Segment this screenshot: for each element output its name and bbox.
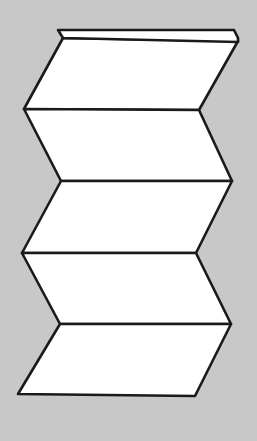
paper-panel-3 [22, 181, 232, 253]
paper-panel-1 [24, 38, 238, 110]
paper-panel-4 [22, 253, 231, 324]
paper-panel-5 [18, 324, 231, 396]
paper-panels [18, 38, 238, 396]
folded-paper-illustration [0, 0, 257, 441]
paper-panel-2 [24, 109, 232, 181]
accordion-fold-diagram [0, 0, 257, 441]
